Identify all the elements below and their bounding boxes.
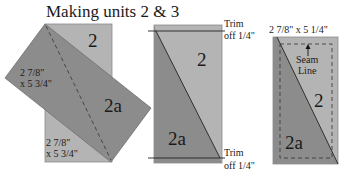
diagram-canvas: Making units 2 & 3 2 2a 2 7/8" x 5 3/4" … bbox=[0, 0, 348, 180]
dark-dimension-line2: x 5 3/4" bbox=[20, 78, 52, 89]
label-2a: 2a bbox=[168, 128, 187, 149]
seam-label-line1: Seam bbox=[296, 54, 318, 65]
seam-label-line2: Line bbox=[298, 65, 317, 76]
diagram-title: Making units 2 & 3 bbox=[46, 2, 179, 21]
step-2-trim: 2 2a Trim off 1/4" Trim off 1/4" bbox=[148, 18, 255, 171]
label-2: 2 bbox=[88, 30, 98, 51]
dark-dimension-line1: 2 7/8" bbox=[20, 67, 44, 78]
label-2: 2 bbox=[314, 90, 324, 111]
finished-dimension: 2 7/8" x 5 1/4" bbox=[269, 24, 328, 35]
trim-bottom-label-line2: off 1/4" bbox=[224, 160, 255, 171]
light-dimension-line2: x 5 3/4" bbox=[46, 148, 78, 159]
label-2a: 2a bbox=[285, 132, 304, 153]
label-2: 2 bbox=[197, 49, 207, 70]
trim-bottom-label-line1: Trim bbox=[224, 147, 244, 158]
trim-top-label-line1: Trim bbox=[224, 18, 244, 29]
step-1-overlap: 2 2a 2 7/8" x 5 3/4" 2 7/8" x 5 3/4" bbox=[5, 24, 151, 162]
label-2a: 2a bbox=[104, 95, 123, 116]
light-dimension-line1: 2 7/8" bbox=[46, 137, 70, 148]
trim-top-label-line2: off 1/4" bbox=[224, 30, 255, 41]
step-3-finished-unit: 2 7/8" x 5 1/4" Seam Line 2 2a bbox=[269, 24, 338, 164]
